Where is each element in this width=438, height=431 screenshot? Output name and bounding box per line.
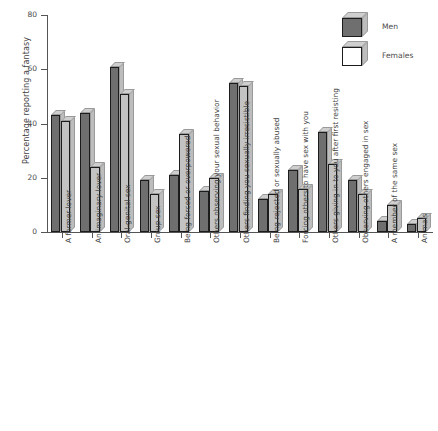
y-tick-label: 80 (3, 11, 37, 19)
bar-group (140, 15, 150, 232)
bar-men (377, 221, 387, 232)
x-tick-mark (359, 233, 360, 238)
x-tick-mark (62, 233, 63, 238)
bar-men (199, 191, 209, 232)
legend-label-men: Men (382, 22, 398, 31)
x-tick-mark (151, 233, 152, 238)
bar-group (110, 15, 120, 232)
bar-men (258, 199, 268, 232)
bar-men (51, 115, 61, 232)
bar-group (288, 15, 298, 232)
legend-item-men: Men (334, 14, 434, 40)
bar-men (318, 132, 328, 232)
x-axis-label: Oral-genital sex (124, 184, 131, 243)
bar-men (348, 180, 358, 232)
x-tick-mark (329, 233, 330, 238)
bar-men (169, 175, 179, 232)
x-axis-label: An imaginary lover (95, 173, 102, 243)
x-tick-mark (181, 233, 182, 238)
bar-men (80, 113, 90, 232)
x-tick-mark (240, 233, 241, 238)
x-tick-mark (418, 233, 419, 238)
legend-swatch-side-icon (362, 12, 368, 37)
x-axis-label: Group sex (154, 206, 161, 244)
bar-group (229, 15, 239, 232)
chart-legend: Men Females (334, 14, 434, 74)
x-tick-mark (270, 233, 271, 238)
legend-item-females: Females (334, 43, 434, 69)
bar-group (318, 15, 328, 232)
x-axis-label: Others finding you sexually irresistible (243, 101, 250, 243)
y-tick-label: 40 (3, 120, 37, 128)
bar-group (258, 15, 268, 232)
legend-label-females: Females (382, 51, 413, 60)
x-axis-label: A member of the same sex (391, 143, 398, 243)
x-axis-label: Forcing others to have sex with you (302, 111, 309, 243)
x-tick-mark (92, 233, 93, 238)
bar-group (51, 15, 61, 232)
x-axis-label: Others giving in to you after first resi… (332, 88, 339, 243)
x-axis-label: Being rejected or sexually abused (273, 117, 280, 243)
y-tick-label: 60 (3, 65, 37, 73)
x-axis-label: A former lover (65, 190, 72, 243)
bar-men (110, 67, 120, 232)
bar-group (80, 15, 90, 232)
y-axis-title: Percentage reporting a fantasy (22, 21, 31, 181)
legend-swatch-side-icon (362, 41, 368, 66)
bar-group (199, 15, 209, 232)
bar-men (288, 170, 298, 232)
bar-group (150, 15, 160, 232)
legend-swatch-females (342, 47, 362, 66)
y-tick-mark (41, 232, 47, 233)
y-tick-label: 0 (3, 228, 37, 236)
bar-men (140, 180, 150, 232)
x-axis-label: Observing others engaged in sex (362, 121, 369, 243)
x-axis-label: Animals (421, 214, 428, 243)
bar-chart-figure: Percentage reporting a fantasy 020406080… (0, 0, 438, 431)
bar-men (229, 83, 239, 232)
x-axis-label: Being forced or overpowered (184, 136, 191, 243)
x-axis-label: Others observing your sexual behavior (213, 99, 220, 243)
legend-swatch-men (342, 18, 362, 37)
bar-men (407, 224, 417, 232)
y-tick-label: 20 (3, 174, 37, 182)
bar-group (169, 15, 179, 232)
